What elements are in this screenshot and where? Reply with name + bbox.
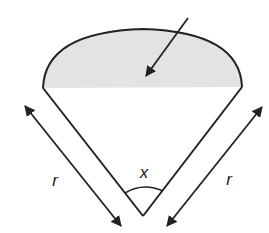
- radius-label-left: r: [52, 172, 58, 189]
- sector-diagram: [0, 0, 269, 233]
- radius-line-left: [43, 88, 143, 216]
- angle-label-x: x: [140, 164, 149, 181]
- angle-arc: [125, 187, 163, 193]
- radius-dimension-arrow-left: [25, 106, 121, 226]
- radius-label-right: r: [226, 171, 232, 188]
- shaded-segment: [43, 29, 242, 88]
